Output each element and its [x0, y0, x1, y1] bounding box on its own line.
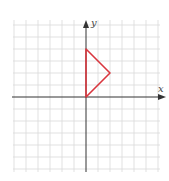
- y-axis-arrow-icon: [83, 20, 89, 28]
- y-axis-label: y: [90, 17, 97, 28]
- y-axis: y: [83, 17, 97, 172]
- x-axis-label: x: [158, 83, 164, 94]
- x-axis-arrow-icon: [158, 94, 166, 100]
- coordinate-plane: x y: [0, 0, 169, 181]
- x-axis: x: [12, 83, 166, 100]
